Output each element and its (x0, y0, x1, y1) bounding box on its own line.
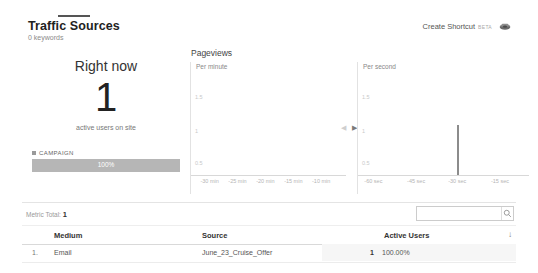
campaign-legend[interactable]: CAMPAIGN (32, 150, 182, 156)
create-shortcut-label: Create Shortcut (423, 22, 476, 31)
cell-active-users: 1 (370, 249, 374, 256)
ytick: 0.5 (195, 160, 203, 166)
cell-medium[interactable]: Email (54, 249, 72, 256)
xtick: -45 sec (407, 178, 425, 184)
table-toolbar: Metric Total: 1 (22, 202, 516, 226)
xtick: -30 min (200, 178, 218, 184)
xtick: -15 min (284, 178, 302, 184)
chevron-left-icon[interactable]: ◀ (341, 122, 348, 134)
chart-per-minute-label: Per minute (196, 63, 227, 70)
right-now-panel: Right now 1 active users on site CAMPAIG… (22, 50, 190, 190)
row-index: 1. (32, 249, 38, 256)
xtick: -15 sec (491, 178, 509, 184)
page-header: Traffic Sources 0 keywords Create Shortc… (0, 0, 538, 44)
metric-total-value: 1 (63, 210, 67, 219)
column-header-source[interactable]: Source (202, 231, 227, 240)
chart-bar (457, 125, 459, 175)
row-highlight (322, 244, 516, 261)
xtick: -20 min (256, 178, 274, 184)
xtick: -10 min (312, 178, 330, 184)
sort-descending-icon[interactable]: ↓ (508, 230, 512, 239)
metric-total-label: Metric Total: (26, 211, 61, 218)
campaign-bar[interactable]: 100% (32, 159, 180, 172)
share-icon[interactable] (498, 19, 512, 31)
ytick: 1 (195, 128, 198, 134)
active-users-count: 1 (22, 76, 190, 118)
table-header-row: Medium Source Active Users ↓ (22, 226, 516, 245)
ytick: 1.5 (362, 94, 370, 100)
chart-per-minute-xticks: -30 min -25 min -20 min -15 min -10 min (191, 178, 346, 188)
traffic-sources-table: Metric Total: 1 Medium Source Active Use… (0, 196, 538, 273)
active-users-caption: active users on site (22, 124, 190, 131)
cell-active-users-percent: 100.00% (382, 249, 410, 256)
ytick: 1.5 (195, 94, 203, 100)
right-now-title: Right now (22, 58, 190, 74)
search-input[interactable] (417, 208, 501, 219)
ytick: 0.5 (362, 160, 370, 166)
table-row[interactable]: 1. Email June_23_Cruise_Offer 1 100.00% (22, 244, 516, 263)
x-axis-line (191, 175, 346, 176)
chart-per-second-label: Per second (363, 63, 396, 70)
metric-total: Metric Total: 1 (26, 210, 67, 219)
search-icon[interactable] (501, 207, 513, 220)
pageviews-section: Pageviews Per minute 1.5 1 0.5 -30 min -… (190, 44, 528, 196)
create-shortcut-button[interactable]: Create Shortcut BETA (423, 22, 492, 31)
column-header-medium[interactable]: Medium (54, 231, 82, 240)
xtick: -25 min (228, 178, 246, 184)
legend-swatch-icon (32, 151, 36, 155)
pageviews-title: Pageviews (191, 48, 232, 58)
xtick: -30 sec (448, 178, 466, 184)
chart-per-second-xticks: -60 sec -45 sec -30 sec -15 sec (358, 178, 529, 188)
chart-per-minute-plot: 1.5 1 0.5 (191, 76, 346, 176)
header-rule (58, 15, 90, 17)
xtick: -60 sec (364, 178, 382, 184)
cell-source[interactable]: June_23_Cruise_Offer (202, 249, 272, 256)
realtime-overview: Right now 1 active users on site CAMPAIG… (0, 44, 538, 196)
campaign-legend-label: CAMPAIGN (39, 150, 74, 156)
chart-per-second: Per second 1.5 1 0.5 -60 sec -45 sec -30… (357, 62, 529, 194)
page-subtitle: 0 keywords (28, 34, 63, 41)
chart-per-second-plot: 1.5 1 0.5 (358, 76, 529, 176)
campaign-bar-label: 100% (32, 161, 180, 168)
column-header-active-users[interactable]: Active Users (384, 231, 429, 240)
table-search[interactable] (416, 206, 514, 221)
ytick: 1 (362, 128, 365, 134)
campaign-breakdown: CAMPAIGN 100% (32, 150, 182, 172)
chart-per-minute: Per minute 1.5 1 0.5 -30 min -25 min -20… (190, 62, 346, 194)
beta-badge: BETA (478, 24, 492, 30)
x-axis-line (358, 175, 529, 176)
page-title: Traffic Sources (28, 19, 120, 33)
